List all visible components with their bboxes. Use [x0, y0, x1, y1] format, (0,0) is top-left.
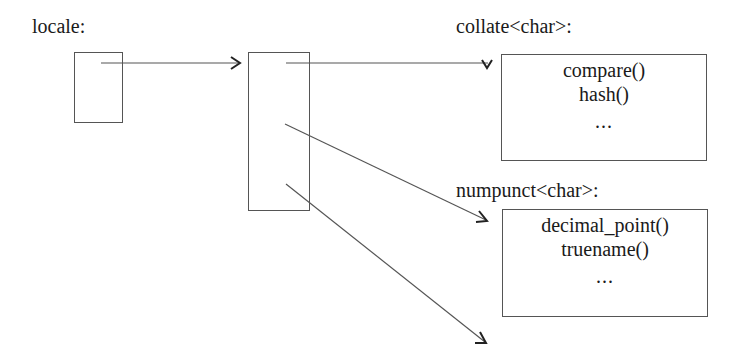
- locale-label: locale:: [32, 15, 85, 37]
- numpunct-facet-box: decimal_point() truename() ...: [502, 209, 708, 317]
- collate-member-hash: hash(): [502, 82, 706, 106]
- arrow-table-to-other-facet: [286, 184, 486, 343]
- collate-facet-box: compare() hash() ...: [501, 54, 707, 161]
- collate-more-ellipsis: ...: [502, 106, 706, 136]
- collate-member-compare: compare(): [502, 58, 706, 82]
- facet-table-box: [248, 52, 310, 211]
- numpunct-member-decimal-point: decimal_point(): [503, 213, 707, 237]
- numpunct-more-ellipsis: ...: [503, 261, 707, 291]
- locale-facet-diagram: locale: collate<char>: compare() hash() …: [0, 0, 748, 361]
- numpunct-facet-label: numpunct<char>:: [456, 179, 599, 201]
- arrow-table-to-collate: [286, 60, 492, 68]
- collate-facet-label: collate<char>:: [456, 15, 572, 37]
- numpunct-member-truename: truename(): [503, 237, 707, 261]
- locale-object-box: [74, 52, 123, 123]
